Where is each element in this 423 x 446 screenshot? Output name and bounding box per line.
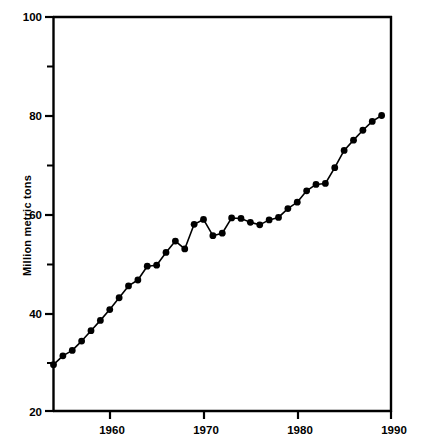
data-point xyxy=(134,277,141,284)
data-point xyxy=(144,263,151,270)
data-point xyxy=(172,238,179,245)
data-point xyxy=(247,219,254,226)
x-tick-label-1970: 1970 xyxy=(193,424,219,436)
data-point xyxy=(69,347,76,354)
data-point xyxy=(341,147,348,154)
x-tick-label-1980: 1980 xyxy=(287,424,313,436)
data-point xyxy=(163,249,170,256)
y-tick-label-80: 80 xyxy=(29,110,42,122)
data-point xyxy=(116,294,123,301)
data-point xyxy=(209,232,216,239)
data-point xyxy=(125,283,132,290)
data-point xyxy=(284,205,291,212)
y-tick-label-20: 20 xyxy=(29,406,42,418)
data-point xyxy=(369,118,376,125)
data-point xyxy=(219,230,226,237)
data-point xyxy=(97,317,104,324)
data-point xyxy=(322,180,329,187)
data-point xyxy=(88,327,95,334)
y-tick-label-100: 100 xyxy=(23,11,42,23)
data-point xyxy=(313,181,320,188)
data-point xyxy=(359,127,366,134)
data-point xyxy=(191,221,198,228)
data-point xyxy=(294,199,301,206)
data-point xyxy=(106,306,113,313)
data-point xyxy=(331,164,338,171)
data-point xyxy=(256,221,263,228)
data-point xyxy=(181,246,188,253)
data-point xyxy=(50,361,57,368)
x-tick-label-1960: 1960 xyxy=(99,424,125,436)
data-point xyxy=(78,338,85,345)
data-point xyxy=(238,215,245,222)
y-tick-label-40: 40 xyxy=(29,308,42,320)
data-point xyxy=(303,187,310,194)
data-point xyxy=(228,215,235,222)
chart-background xyxy=(0,0,423,446)
y-axis-title: Million metric tons xyxy=(21,175,33,276)
data-point xyxy=(266,217,273,224)
data-point xyxy=(200,216,207,223)
data-point xyxy=(350,137,357,144)
data-point xyxy=(275,214,282,221)
chart-figure: 100 80 60 40 20 1960 1970 1980 1990 Mill… xyxy=(0,0,423,446)
data-point xyxy=(153,262,160,269)
data-point xyxy=(59,352,66,359)
data-point xyxy=(378,112,385,119)
line-chart: 100 80 60 40 20 1960 1970 1980 1990 Mill… xyxy=(0,0,423,446)
x-tick-label-1990: 1990 xyxy=(381,424,407,436)
